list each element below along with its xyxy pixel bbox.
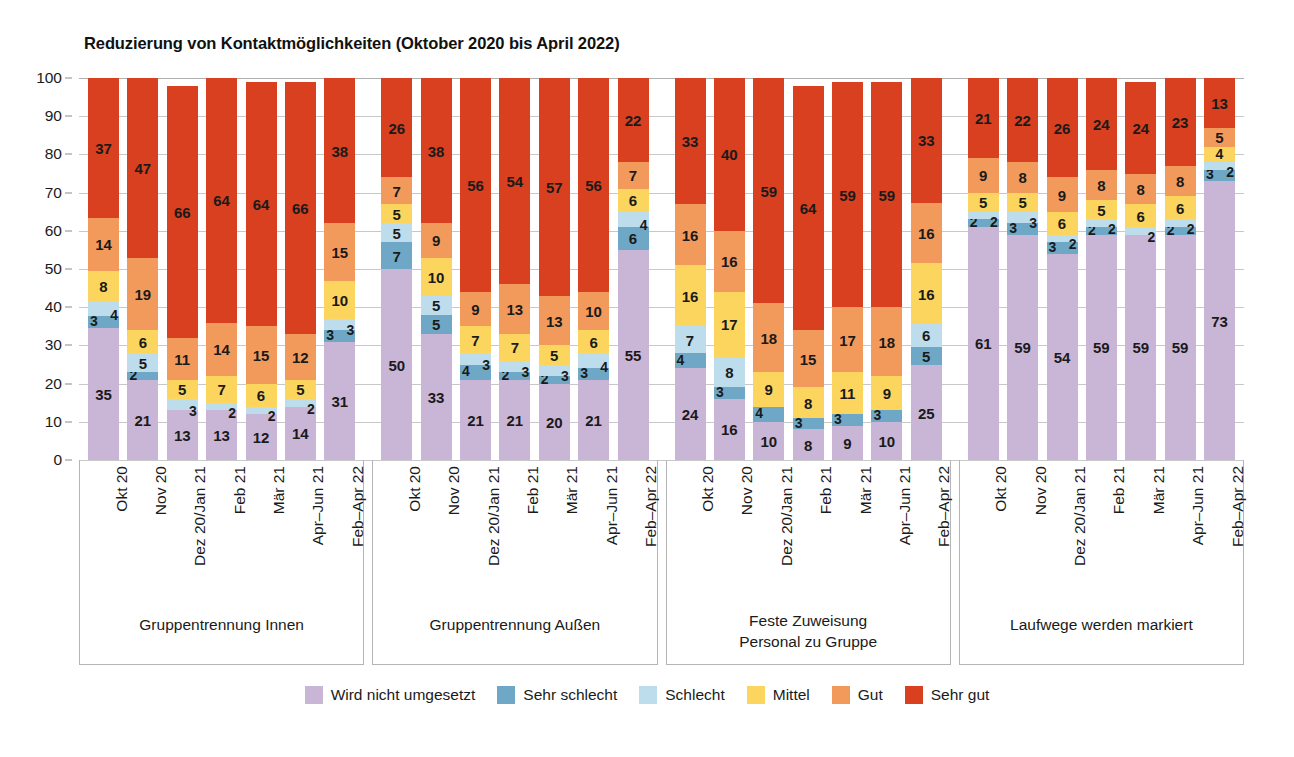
bar-segment[interactable]: 10 [753, 422, 784, 460]
bar-segment[interactable]: 59 [832, 82, 863, 307]
bar-segment[interactable]: 24 [675, 368, 706, 460]
bar-segment[interactable]: 21 [968, 78, 999, 158]
bar-segment[interactable]: 3 [324, 319, 355, 330]
bar-column[interactable]: 73324513 [1204, 78, 1235, 460]
bar-segment[interactable]: 2 [127, 372, 158, 380]
bar-segment[interactable]: 59 [1007, 235, 1038, 460]
bar-segment[interactable]: 5 [1086, 200, 1117, 219]
bar-segment[interactable]: 2 [1165, 227, 1196, 235]
bar-segment[interactable]: 2 [968, 212, 999, 220]
bar-segment[interactable]: 3 [871, 410, 902, 421]
bar-segment[interactable]: 3 [832, 414, 863, 425]
bar-segment[interactable]: 50 [381, 269, 412, 460]
bar-segment[interactable]: 3 [1007, 212, 1038, 223]
bar-segment[interactable]: 17 [832, 307, 863, 372]
bar-segment[interactable]: 57 [539, 78, 570, 296]
bar-segment[interactable]: 17 [714, 292, 745, 357]
bar-segment[interactable]: 2 [539, 376, 570, 384]
bar-segment[interactable]: 10 [578, 292, 609, 330]
bar-segment[interactable]: 2 [246, 407, 277, 415]
bar-segment[interactable]: 16 [675, 265, 706, 326]
bar-column[interactable]: 213461056 [578, 78, 609, 460]
bar-segment[interactable]: 22 [618, 78, 649, 162]
bar-segment[interactable]: 15 [324, 223, 355, 280]
bar-segment[interactable]: 10 [421, 258, 452, 296]
bar-column[interactable]: 3133101538 [324, 78, 355, 460]
bar-segment[interactable]: 9 [421, 223, 452, 257]
bar-segment[interactable]: 2 [285, 399, 316, 407]
bar-segment[interactable]: 3 [460, 353, 491, 364]
bar-segment[interactable]: 6 [1165, 196, 1196, 219]
bar-segment[interactable]: 59 [1086, 235, 1117, 460]
bar-segment[interactable]: 4 [578, 353, 609, 368]
bar-column[interactable]: 335510938 [421, 78, 452, 460]
bar-column[interactable]: 8381564 [793, 78, 824, 460]
bar-segment[interactable]: 2 [1165, 219, 1196, 227]
bar-column[interactable]: 59226823 [1165, 78, 1196, 460]
bar-column[interactable]: 14251266 [285, 78, 316, 460]
bar-segment[interactable]: 3 [499, 361, 530, 372]
bar-segment[interactable]: 18 [753, 303, 784, 372]
bar-column[interactable]: 2556161633 [911, 78, 942, 460]
bar-segment[interactable]: 13 [167, 410, 198, 460]
bar-segment[interactable]: 6 [618, 189, 649, 212]
bar-segment[interactable]: 14 [206, 323, 237, 376]
bar-segment[interactable]: 2 [206, 403, 237, 411]
bar-column[interactable]: 202351357 [539, 78, 570, 460]
bar-column[interactable]: 93111759 [832, 78, 863, 460]
bar-segment[interactable]: 59 [1125, 235, 1156, 460]
bar-segment[interactable]: 16 [675, 204, 706, 265]
bar-segment[interactable]: 16 [911, 203, 942, 264]
bar-column[interactable]: 212561947 [127, 78, 158, 460]
bar-column[interactable]: 55646722 [618, 78, 649, 460]
bar-segment[interactable]: 12 [285, 334, 316, 380]
bar-segment[interactable]: 15 [246, 326, 277, 383]
bar-segment[interactable]: 9 [832, 426, 863, 460]
bar-segment[interactable]: 26 [381, 78, 412, 177]
bar-segment[interactable]: 7 [460, 326, 491, 353]
bar-segment[interactable]: 5 [539, 345, 570, 364]
bar-segment[interactable]: 16 [714, 399, 745, 460]
bar-segment[interactable]: 5 [911, 347, 942, 366]
bar-segment[interactable]: 2 [1047, 235, 1078, 243]
bar-segment[interactable]: 33 [911, 78, 942, 203]
bar-segment[interactable]: 61 [968, 227, 999, 460]
bar-segment[interactable]: 55 [618, 250, 649, 460]
bar-segment[interactable]: 4 [675, 353, 706, 368]
bar-column[interactable]: 54326926 [1047, 78, 1078, 460]
bar-segment[interactable]: 4 [88, 301, 119, 316]
bar-segment[interactable]: 7 [381, 177, 412, 204]
bar-segment[interactable]: 9 [753, 372, 784, 406]
bar-segment[interactable]: 5 [127, 353, 158, 372]
bar-segment[interactable]: 66 [285, 82, 316, 334]
bar-segment[interactable]: 37 [88, 78, 119, 218]
bar-segment[interactable]: 8 [793, 429, 824, 460]
legend-item[interactable]: Schlecht [639, 686, 724, 704]
bar-segment[interactable]: 7 [381, 242, 412, 269]
bar-segment[interactable]: 16 [911, 263, 942, 324]
bar-column[interactable]: 61225921 [968, 78, 999, 460]
bar-segment[interactable]: 25 [911, 365, 942, 460]
bar-segment[interactable]: 8 [714, 357, 745, 388]
bar-segment[interactable]: 6 [578, 330, 609, 353]
bar-segment[interactable]: 3 [1047, 242, 1078, 253]
bar-segment[interactable]: 21 [499, 380, 530, 460]
bar-segment[interactable]: 5 [968, 193, 999, 212]
bar-segment[interactable]: 59 [753, 78, 784, 303]
bar-segment[interactable]: 13 [206, 410, 237, 460]
bar-segment[interactable]: 4 [753, 407, 784, 422]
bar-segment[interactable]: 9 [460, 292, 491, 326]
bar-column[interactable]: 50755726 [381, 78, 412, 460]
bar-segment[interactable]: 3 [167, 399, 198, 410]
bar-segment[interactable]: 8 [1165, 166, 1196, 197]
bar-segment[interactable]: 31 [324, 342, 355, 460]
bar-segment[interactable]: 73 [1204, 181, 1235, 460]
bar-column[interactable]: 13271464 [206, 78, 237, 460]
legend-item[interactable]: Sehr gut [905, 686, 990, 704]
bar-column[interactable]: 59335822 [1007, 78, 1038, 460]
bar-segment[interactable]: 56 [460, 78, 491, 292]
bar-segment[interactable]: 21 [127, 380, 158, 460]
legend-item[interactable]: Gut [832, 686, 883, 704]
bar-segment[interactable]: 2 [1125, 227, 1156, 235]
bar-column[interactable]: 13351166 [167, 78, 198, 460]
